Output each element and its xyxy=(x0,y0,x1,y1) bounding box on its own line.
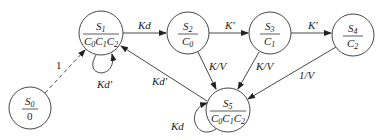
state-output-s1: C0C1C2 xyxy=(84,35,118,49)
edge-label-s3-s4: K' xyxy=(307,19,318,31)
edge-label-s5-self: Kd xyxy=(170,120,184,132)
edge-label-s2-s3: K' xyxy=(224,19,235,31)
edge-s1-self xyxy=(93,54,113,73)
edge-label-s4-s5: 1/V xyxy=(299,69,316,81)
edge-s4-s5 xyxy=(248,47,336,99)
edge-s0-s1 xyxy=(45,50,85,93)
state-output-s5: C0C1C2 xyxy=(211,112,245,126)
state-output-s0: 0 xyxy=(27,110,33,122)
state-diagram: S0 S1 S2 S3 S4 S5 0 C0C1C2 C0 C1 C2 C0C1… xyxy=(0,0,383,140)
edge-label-s3-s5: K/V xyxy=(255,60,274,72)
edge-label-s0-s1: 1 xyxy=(56,59,62,71)
edge-label-s5-s1: Kd' xyxy=(151,75,168,87)
edge-label-s2-s5: K/V xyxy=(208,60,227,72)
edge-label-s1-self: Kd' xyxy=(96,78,113,90)
edge-label-s1-s2: Kd xyxy=(137,19,151,31)
edge-s5-s1 xyxy=(121,46,207,101)
